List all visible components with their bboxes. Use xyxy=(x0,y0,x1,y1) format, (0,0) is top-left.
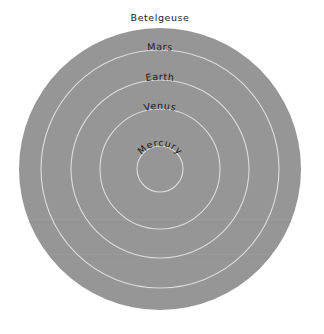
label-venus: Venus xyxy=(143,100,178,113)
diagram-root: Betelgeuse Mars Earth Venus Mercury xyxy=(0,0,324,334)
label-venus-text: Venus xyxy=(143,100,178,113)
label-betelgeuse: Betelgeuse xyxy=(131,12,190,23)
label-mars-text: Mars xyxy=(147,41,173,53)
banding-line xyxy=(0,222,324,223)
label-earth: Earth xyxy=(145,71,175,83)
label-earth-text: Earth xyxy=(145,71,175,83)
label-mars: Mars xyxy=(147,41,173,53)
banding-line xyxy=(0,219,324,220)
ring-betelgeuse xyxy=(19,28,301,310)
concentric-orbits-chart: Betelgeuse Mars Earth Venus Mercury xyxy=(0,0,324,334)
